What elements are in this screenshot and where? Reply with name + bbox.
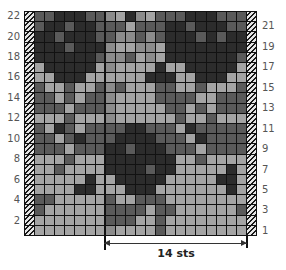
chart-cell	[75, 134, 84, 143]
chart-cell	[65, 124, 74, 133]
chart-cell	[166, 144, 175, 153]
edge-stitch-cell	[25, 165, 34, 174]
chart-cell	[106, 124, 115, 133]
chart-cell	[196, 195, 205, 204]
chart-cell	[207, 32, 216, 41]
chart-cell	[35, 165, 44, 174]
edge-stitch-cell	[25, 216, 34, 225]
chart-cell	[186, 216, 195, 225]
chart-cell	[126, 12, 135, 21]
chart-cell	[106, 73, 115, 82]
chart-cell	[45, 124, 54, 133]
chart-cell	[116, 63, 125, 72]
chart-cell	[126, 216, 135, 225]
chart-cell	[55, 205, 64, 214]
chart-cell	[176, 185, 185, 194]
edge-stitch-cell	[247, 22, 256, 31]
row-number-label: 20	[4, 32, 20, 42]
edge-stitch-cell	[247, 43, 256, 52]
chart-cell	[146, 165, 155, 174]
chart-cell	[217, 63, 226, 72]
edge-stitch-cell	[25, 73, 34, 82]
chart-cell	[65, 144, 74, 153]
chart-cell	[166, 63, 175, 72]
chart-cell	[55, 12, 64, 21]
chart-cell	[65, 73, 74, 82]
chart-cell	[106, 155, 115, 164]
chart-cell	[196, 134, 205, 143]
chart-cell	[156, 205, 165, 214]
chart-cell	[116, 185, 125, 194]
chart-cell	[55, 216, 64, 225]
chart-cell	[86, 226, 95, 235]
chart-cell	[75, 165, 84, 174]
chart-cell	[146, 53, 155, 62]
chart-cell	[106, 63, 115, 72]
row-number-label: 22	[4, 11, 20, 21]
chart-cell	[55, 53, 64, 62]
chart-cell	[156, 114, 165, 123]
chart-cell	[217, 155, 226, 164]
edge-stitch-cell	[247, 226, 256, 235]
chart-cell	[196, 73, 205, 82]
repeat-start-line	[104, 11, 106, 250]
chart-cell	[86, 155, 95, 164]
chart-cell	[116, 12, 125, 21]
chart-cell	[116, 83, 125, 92]
chart-cell	[176, 124, 185, 133]
chart-cell	[176, 43, 185, 52]
chart-cell	[217, 124, 226, 133]
chart-cell	[45, 195, 54, 204]
chart-cell	[126, 205, 135, 214]
chart-cell	[217, 104, 226, 113]
chart-cell	[45, 134, 54, 143]
chart-cell	[166, 155, 175, 164]
edge-stitch-cell	[25, 195, 34, 204]
row-number-label: 9	[262, 144, 268, 154]
chart-cell	[176, 165, 185, 174]
chart-cell	[237, 63, 246, 72]
chart-cell	[116, 93, 125, 102]
chart-cell	[136, 165, 145, 174]
chart-cell	[106, 216, 115, 225]
chart-cell	[75, 114, 84, 123]
chart-cell	[86, 104, 95, 113]
chart-cell	[45, 114, 54, 123]
chart-cell	[45, 205, 54, 214]
chart-cell	[106, 134, 115, 143]
chart-cell	[35, 134, 44, 143]
chart-cell	[55, 195, 64, 204]
edge-stitch-cell	[25, 144, 34, 153]
chart-cell	[207, 205, 216, 214]
chart-cell	[196, 144, 205, 153]
chart-cell	[217, 134, 226, 143]
chart-cell	[237, 185, 246, 194]
chart-cell	[217, 185, 226, 194]
chart-cell	[217, 114, 226, 123]
chart-cell	[86, 216, 95, 225]
chart-cell	[146, 114, 155, 123]
chart-cell	[75, 63, 84, 72]
chart-cell	[207, 155, 216, 164]
chart-cell	[65, 114, 74, 123]
chart-cell	[55, 22, 64, 31]
chart-cell	[116, 134, 125, 143]
chart-cell	[176, 83, 185, 92]
chart-cell	[166, 53, 175, 62]
chart-cell	[207, 144, 216, 153]
chart-cell	[126, 93, 135, 102]
edge-stitch-cell	[25, 22, 34, 31]
chart-cell	[176, 195, 185, 204]
edge-stitch-cell	[247, 53, 256, 62]
chart-cell	[207, 165, 216, 174]
chart-cell	[156, 134, 165, 143]
row-number-label: 3	[262, 205, 268, 215]
chart-cell	[196, 175, 205, 184]
chart-cell	[45, 175, 54, 184]
chart-cell	[136, 185, 145, 194]
chart-cell	[186, 32, 195, 41]
row-number-label: 2	[4, 216, 20, 226]
chart-cell	[196, 63, 205, 72]
chart-cell	[146, 83, 155, 92]
chart-cell	[126, 226, 135, 235]
